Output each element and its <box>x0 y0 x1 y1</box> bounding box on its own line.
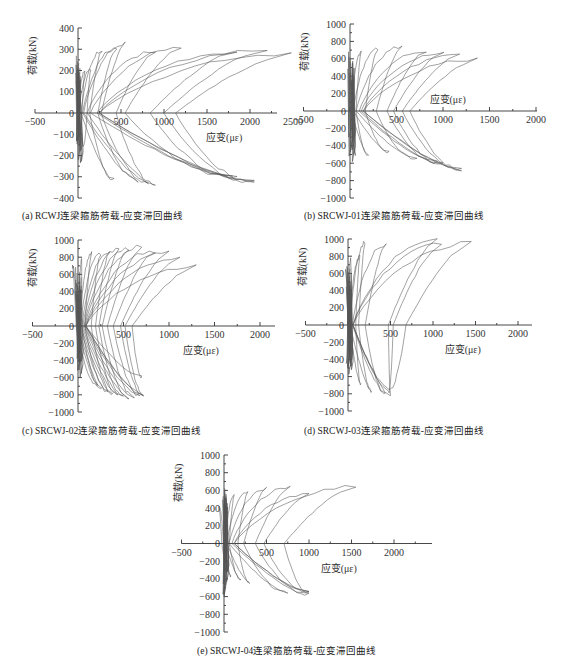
svg-text:1000: 1000 <box>200 450 220 461</box>
hysteresis-curves <box>219 486 356 597</box>
svg-text:1000: 1000 <box>299 547 319 558</box>
svg-text:−200: −200 <box>199 556 220 567</box>
svg-text:0: 0 <box>215 538 220 549</box>
hysteresis-loop <box>232 486 309 595</box>
y-axis-title: 荷载(kN) <box>173 464 185 503</box>
svg-text:800: 800 <box>205 467 220 478</box>
hysteresis-chart-e: −1000−800−600−400−20002004006008001000−5… <box>0 0 564 663</box>
svg-text:−800: −800 <box>199 609 220 620</box>
svg-text:400: 400 <box>205 503 220 514</box>
svg-text:−500: −500 <box>171 547 192 558</box>
hysteresis-loop <box>234 486 356 594</box>
caption-e: (e) SRCWJ-04连梁箍筋荷载-应变滞回曲线 <box>197 643 376 657</box>
x-axis-title: 应变(με) <box>321 562 357 575</box>
svg-text:2000: 2000 <box>384 547 404 558</box>
svg-text:−400: −400 <box>199 573 220 584</box>
chart-panel-e: −1000−800−600−400−20002004006008001000−5… <box>0 0 564 663</box>
svg-text:1500: 1500 <box>342 547 362 558</box>
svg-text:500: 500 <box>259 547 274 558</box>
svg-text:−1000: −1000 <box>194 627 220 638</box>
svg-text:200: 200 <box>205 520 220 531</box>
svg-text:−600: −600 <box>199 591 220 602</box>
svg-text:600: 600 <box>205 485 220 496</box>
